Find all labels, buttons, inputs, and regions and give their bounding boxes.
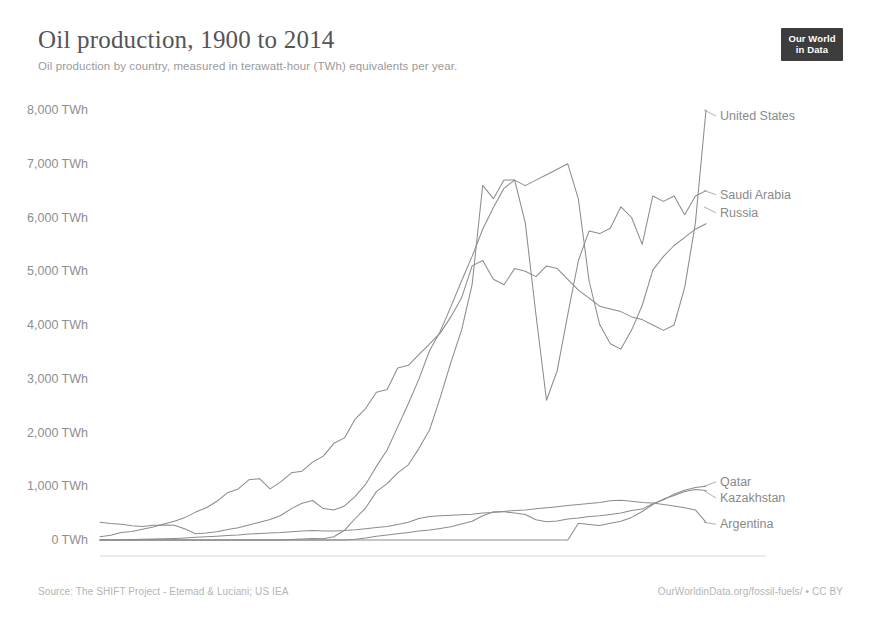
logo-line-1: Our World	[788, 34, 835, 44]
series-label-kazakhstan[interactable]: Kazakhstan	[720, 491, 785, 505]
plot-area: 0 TWh1,000 TWh2,000 TWh3,000 TWh4,000 TW…	[0, 86, 871, 566]
series-lines	[100, 110, 706, 540]
y-axis-tick-label: 7,000 TWh	[27, 157, 88, 171]
footer-link[interactable]: OurWorldinData.org/fossil-fuels/ • CC BY	[658, 586, 843, 597]
series-leader-argentina	[704, 522, 716, 524]
series-label-united-states[interactable]: United States	[720, 109, 795, 123]
page-title: Oil production, 1900 to 2014	[38, 26, 758, 55]
series-label-saudi-arabia[interactable]: Saudi Arabia	[720, 188, 791, 202]
series-leader-qatar	[704, 482, 716, 486]
series-line-argentina[interactable]	[100, 500, 706, 540]
series-leader-russia	[704, 207, 716, 213]
chart-subtitle: Oil production by country, measured in t…	[38, 60, 758, 72]
series-line-saudi-arabia[interactable]	[100, 180, 706, 540]
y-axis-tick-label: 4,000 TWh	[27, 318, 88, 332]
logo-line-2: in Data	[796, 45, 828, 55]
series-leader-saudi-arabia	[704, 191, 716, 195]
y-axis-tick-label: 8,000 TWh	[27, 103, 88, 117]
series-label-argentina[interactable]: Argentina	[720, 517, 774, 531]
y-axis-tick-label: 1,000 TWh	[27, 479, 88, 493]
series-line-united-states[interactable]	[100, 110, 706, 537]
series-label-russia[interactable]: Russia	[720, 206, 758, 220]
our-world-in-data-logo[interactable]: Our World in Data	[781, 28, 843, 61]
y-axis-tick-label: 2,000 TWh	[27, 426, 88, 440]
chart-header: Oil production, 1900 to 2014 Oil product…	[38, 26, 758, 72]
chart-footer: Source: The SHIFT Project - Etemad & Luc…	[38, 586, 843, 602]
series-labels: United StatesSaudi ArabiaRussiaQatarKaza…	[704, 109, 795, 531]
series-leader-kazakhstan	[704, 491, 716, 499]
y-axis-tick-label: 6,000 TWh	[27, 211, 88, 225]
chart-card: Oil production, 1900 to 2014 Oil product…	[0, 0, 871, 620]
x-axis: 1900192019401960198020002014	[86, 556, 766, 566]
y-axis-tick-label: 0 TWh	[51, 533, 88, 547]
y-axis: 0 TWh1,000 TWh2,000 TWh3,000 TWh4,000 TW…	[27, 103, 88, 547]
y-axis-tick-label: 3,000 TWh	[27, 372, 88, 386]
y-axis-tick-label: 5,000 TWh	[27, 264, 88, 278]
line-chart: 0 TWh1,000 TWh2,000 TWh3,000 TWh4,000 TW…	[0, 86, 871, 566]
series-label-qatar[interactable]: Qatar	[720, 475, 751, 489]
source-note: Source: The SHIFT Project - Etemad & Luc…	[38, 586, 289, 597]
